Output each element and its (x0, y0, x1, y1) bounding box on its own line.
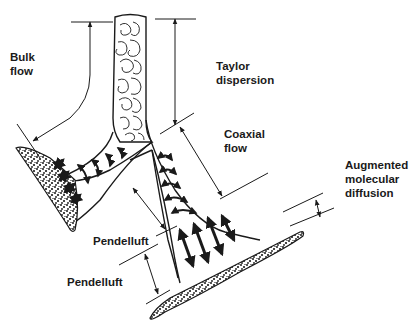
label-bulk-flow: Bulk flow (10, 50, 35, 78)
label-augmented-molecular-diffusion: Augmented molecular diffusion (345, 158, 408, 200)
label-pendelluft-upper: Pendelluft (93, 234, 149, 248)
label-taylor-dispersion: Taylor dispersion (216, 59, 274, 87)
diffusion-arrows (55, 160, 234, 266)
gas-transport-diagram: Bulk flow Taylor dispersion Coaxial flow… (0, 0, 420, 327)
label-pendelluft-lower: Pendelluft (67, 275, 123, 289)
label-coaxial-flow: Coaxial flow (224, 127, 265, 155)
